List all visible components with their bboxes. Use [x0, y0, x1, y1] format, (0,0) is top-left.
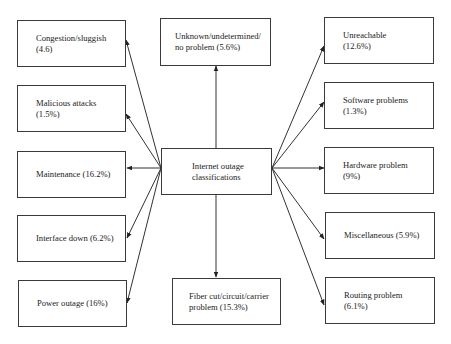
node-miscellaneous: Miscellaneous (5.9%): [325, 212, 435, 259]
node-malicious-attacks: Malicious attacks (1.5%): [17, 85, 126, 132]
arrow-to-malicious: [126, 114, 161, 168]
arrow-to-miscellaneous: [272, 168, 324, 239]
node-maintenance: Maintenance (16.2%): [17, 151, 126, 198]
node-routing-problem: Routing problem (6.1%): [325, 277, 435, 324]
arrow-to-interface: [127, 168, 161, 238]
node-label: Hardware problem (9%): [325, 160, 408, 182]
hub-label: Internet outage classifications: [162, 161, 244, 183]
node-interface-down: Interface down (6.2%): [17, 215, 126, 262]
arrow-to-unreachable: [272, 46, 324, 168]
node-unknown: Unknown/undetermined/ no problem (5.6%): [160, 18, 271, 66]
node-label: Fiber cut/circuit/carrier problem (15.3%…: [173, 291, 269, 313]
node-label: Congestion/sluggish (4.6): [18, 33, 106, 55]
arrow-to-software: [272, 102, 324, 168]
node-label: Interface down (6.2%): [18, 233, 114, 244]
node-label: Maintenance (16.2%): [18, 169, 110, 180]
node-label: Routing problem (6.1%): [326, 290, 402, 312]
node-hub-internet-outage: Internet outage classifications: [161, 148, 272, 195]
node-label: Software problems (1.3%): [325, 95, 408, 117]
node-congestion: Congestion/sluggish (4.6): [17, 20, 126, 67]
node-power-outage: Power outage (16%): [18, 280, 127, 327]
node-hardware-problem: Hardware problem (9%): [324, 147, 434, 194]
arrow-to-power: [127, 168, 161, 303]
node-label: Power outage (16%): [19, 298, 108, 309]
node-software-problems: Software problems (1.3%): [324, 82, 434, 129]
node-label: Unreachable (12.6%): [325, 30, 386, 52]
arrow-to-congestion: [126, 40, 161, 168]
node-fiber-cut: Fiber cut/circuit/carrier problem (15.3%…: [172, 278, 281, 325]
node-label: Unknown/undetermined/ no problem (5.6%): [161, 31, 261, 53]
node-label: Malicious attacks (1.5%): [18, 98, 96, 120]
node-label: Miscellaneous (5.9%): [326, 230, 419, 241]
node-unreachable: Unreachable (12.6%): [324, 17, 434, 64]
